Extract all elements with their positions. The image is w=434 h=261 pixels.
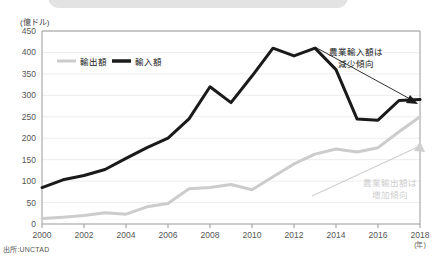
x-axis-tick-label: 2008	[201, 230, 220, 240]
export-trend-annotation-line1: 農業輸出額は	[363, 178, 417, 188]
legend-label-export: 輸出額	[80, 57, 107, 67]
y-axis-tick-label: 300	[22, 90, 36, 100]
x-axis-tick-label: 2010	[243, 230, 262, 240]
line-chart-svg: 0501001502002503003504004502000200220042…	[0, 0, 434, 261]
y-axis-tick-label: 400	[22, 47, 36, 57]
y-axis-tick-label: 0	[31, 219, 36, 229]
chart-plot-area: 0501001502002503003504004502000200220042…	[0, 0, 434, 261]
x-axis-tick-label: 2012	[285, 230, 304, 240]
legend-label-import: 輸入額	[135, 57, 162, 67]
export-trend-arrow-line	[312, 146, 420, 196]
y-axis-tick-label: 250	[22, 112, 36, 122]
series-line-2	[42, 48, 420, 187]
x-axis-tick-label: 2006	[159, 230, 178, 240]
x-axis-tick-label: 2002	[75, 230, 94, 240]
import-trend-annotation-line1: 農業輸入額は	[329, 47, 383, 57]
y-axis-tick-label: 200	[22, 133, 36, 143]
y-axis-tick-label: 50	[27, 198, 37, 208]
x-axis-tick-label: 2016	[369, 230, 388, 240]
x-axis-tick-label: 2014	[327, 230, 346, 240]
legend: 輸出額輸入額	[57, 57, 162, 67]
x-axis-tick-label: 2004	[117, 230, 136, 240]
y-axis-tick-label: 100	[22, 176, 36, 186]
y-axis-tick-label: 150	[22, 155, 36, 165]
y-axis-tick-label: 450	[22, 26, 36, 36]
x-axis-tick-label: 2000	[33, 230, 52, 240]
export-trend-annotation-line2: 増加傾向	[372, 190, 408, 200]
x-axis-unit-label: (年)	[414, 240, 426, 249]
source-note: 出所:UNCTAD	[3, 244, 49, 254]
series-line-1	[42, 117, 420, 219]
import-trend-annotation-line2: 減少傾向	[338, 59, 374, 69]
export-trend-arrow-head	[414, 141, 425, 152]
chart-page: (億ドル) 0501001502002503003504004502000200…	[0, 0, 434, 261]
y-axis-tick-label: 350	[22, 69, 36, 79]
x-axis-tick-label: 2018	[411, 230, 430, 240]
